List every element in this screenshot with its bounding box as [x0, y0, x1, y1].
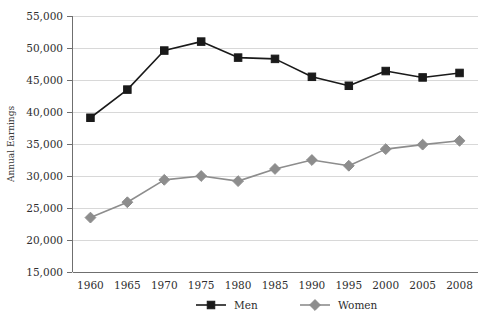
x-tick-label: 1985 — [262, 279, 289, 291]
chart-legend: MenWomen — [196, 299, 378, 311]
series-men — [87, 38, 464, 122]
data-point-marker — [380, 144, 391, 155]
y-tick-label: 15,000 — [26, 266, 63, 278]
data-point-marker — [456, 69, 464, 77]
data-point-marker — [122, 197, 133, 208]
x-tick-label: 1975 — [188, 279, 215, 291]
y-tick-label: 45,000 — [26, 74, 63, 86]
y-axis-group: 15,00020,00025,00030,00035,00040,00045,0… — [26, 10, 72, 278]
data-point-marker — [124, 86, 132, 94]
data-point-marker — [270, 164, 281, 175]
y-tick-label: 30,000 — [26, 170, 63, 182]
x-tick-label: 2005 — [409, 279, 436, 291]
y-tick-label: 35,000 — [26, 138, 63, 150]
x-tick-label: 1980 — [225, 279, 252, 291]
data-point-marker — [417, 139, 428, 150]
data-point-marker — [382, 67, 390, 75]
x-axis-group: 1960196519701975198019851990199520002005… — [73, 273, 479, 292]
series-line — [90, 42, 459, 118]
chart-container: 15,00020,00025,00030,00035,00040,00045,0… — [0, 0, 490, 318]
y-axis-title: Annual Earnings — [6, 106, 16, 183]
y-tick-label: 20,000 — [26, 234, 63, 246]
data-point-marker — [197, 38, 205, 46]
legend-label: Women — [338, 299, 378, 311]
data-point-marker — [343, 160, 354, 171]
series-women — [85, 135, 465, 223]
y-tick-marks — [67, 17, 72, 273]
data-point-marker — [207, 301, 215, 309]
y-tick-label: 25,000 — [26, 202, 63, 214]
data-point-marker — [234, 54, 242, 62]
legend-item-women: Women — [300, 299, 378, 311]
data-point-marker — [161, 47, 169, 55]
y-tick-label: 55,000 — [26, 10, 63, 22]
x-tick-label: 2000 — [372, 279, 399, 291]
data-point-marker — [308, 73, 316, 81]
y-tick-labels: 15,00020,00025,00030,00035,00040,00045,0… — [26, 10, 63, 278]
x-tick-label: 1990 — [299, 279, 326, 291]
data-point-marker — [233, 176, 244, 187]
data-point-marker — [271, 55, 279, 63]
x-tick-label: 1960 — [77, 279, 104, 291]
data-point-marker — [307, 155, 318, 166]
legend-item-men: Men — [196, 299, 258, 311]
x-tick-label: 1995 — [335, 279, 362, 291]
series-line — [90, 141, 459, 218]
data-point-marker — [310, 300, 321, 311]
data-point-marker — [87, 114, 95, 122]
data-point-marker — [419, 74, 427, 82]
y-tick-label: 50,000 — [26, 42, 63, 54]
x-tick-labels: 1960196519701975198019851990199520002005… — [77, 279, 473, 291]
x-tick-label: 2008 — [446, 279, 473, 291]
data-point-marker — [196, 171, 207, 182]
legend-label: Men — [234, 299, 258, 311]
line-chart: 15,00020,00025,00030,00035,00040,00045,0… — [0, 0, 490, 318]
x-tick-label: 1970 — [151, 279, 178, 291]
data-series-layer — [85, 38, 465, 223]
data-point-marker — [85, 212, 96, 223]
x-tick-label: 1965 — [114, 279, 141, 291]
y-tick-label: 40,000 — [26, 106, 63, 118]
data-point-marker — [345, 82, 353, 90]
